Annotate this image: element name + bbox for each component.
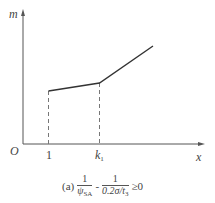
frac2-den-main: 0.2σ/t [102, 185, 125, 196]
frac2-numerator: 1 [113, 174, 118, 185]
y-axis-arrow-icon [21, 9, 25, 16]
x-axis-arrow-icon [198, 142, 205, 146]
frac1-denominator: ψSA [77, 186, 92, 198]
frac1-den-sub: SA [83, 190, 92, 198]
tick-1: 1 [46, 149, 52, 161]
y-axis-label: m [9, 8, 18, 20]
fraction-1: 1 ψSA [77, 174, 92, 198]
caption-relation: ≥0 [132, 180, 144, 192]
figure-caption: (a) 1 ψSA - 1 0.2σ/t3 ≥0 [62, 174, 143, 198]
tick-k1-sub: 1 [100, 155, 104, 163]
origin-label: O [10, 145, 19, 157]
fraction-2: 1 0.2σ/t3 [102, 174, 129, 198]
caption-minus: - [95, 180, 99, 192]
caption-tag: (a) [62, 180, 74, 192]
x-axis-label: x [196, 151, 201, 163]
tick-k1: k1 [95, 149, 104, 163]
frac2-den-sub: 3 [125, 190, 129, 198]
diagram-canvas [0, 0, 215, 203]
m-curve [49, 46, 154, 91]
frac1-numerator: 1 [82, 174, 87, 185]
frac2-denominator: 0.2σ/t3 [102, 186, 129, 198]
